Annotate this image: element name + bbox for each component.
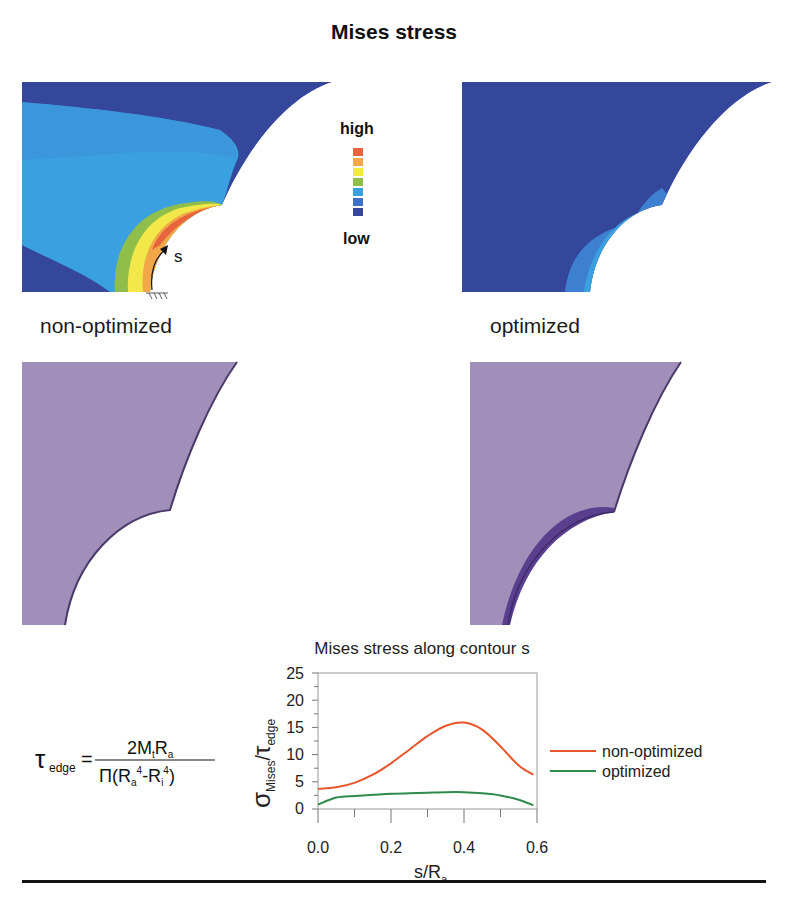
svg-text:σMises/τedge: σMises/τedge — [246, 719, 278, 808]
svg-text:25: 25 — [286, 665, 304, 682]
legend-label-non-optimized: non-optimized — [602, 743, 703, 760]
chart-title: Mises stress along contour s — [314, 639, 529, 658]
geometry-non-optimized — [22, 362, 237, 625]
y-tick-labels: 0 5 10 15 20 25 — [286, 665, 304, 817]
y-axis-label: σMises/τedge — [246, 719, 278, 808]
plot-area — [318, 673, 537, 809]
legend-label-optimized: optimized — [602, 763, 670, 780]
svg-text:0.6: 0.6 — [526, 839, 548, 856]
formula-edge-sub: edge — [49, 761, 76, 775]
bottom-rule — [22, 880, 766, 883]
svg-text:0.0: 0.0 — [307, 839, 329, 856]
tau-edge-formula: τ edge = 2MtRa Π(Ra4-Ri4) — [35, 730, 235, 800]
x-axis-label: s/Ra — [414, 862, 448, 880]
svg-text:5: 5 — [295, 773, 304, 790]
svg-text:0.2: 0.2 — [380, 839, 402, 856]
formula-equals: = — [81, 748, 93, 770]
formula-numerator: 2MtRa — [127, 738, 174, 760]
svg-text:0: 0 — [295, 800, 304, 817]
mises-stress-chart: Mises stress along contour s 0 5 10 15 2… — [240, 630, 788, 880]
geometry-optimized — [470, 362, 681, 625]
svg-text:15: 15 — [286, 719, 304, 736]
svg-text:0.4: 0.4 — [453, 839, 475, 856]
x-axis-ticks — [318, 809, 537, 823]
formula-denominator: Π(Ra4-Ri4) — [99, 765, 175, 788]
svg-text:10: 10 — [286, 746, 304, 763]
x-tick-labels: 0.0 0.2 0.4 0.6 — [307, 839, 548, 856]
svg-text:20: 20 — [286, 692, 304, 709]
formula-tau: τ — [35, 744, 46, 774]
y-axis-ticks — [312, 673, 318, 809]
